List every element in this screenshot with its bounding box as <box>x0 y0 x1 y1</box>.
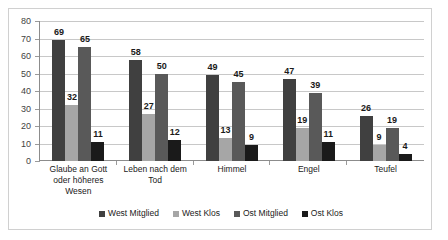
y-axis-tick-label: 10 <box>21 139 31 148</box>
bar-slot: 39 <box>309 21 322 161</box>
bar-slot: 9 <box>373 21 386 161</box>
bar[interactable]: 58 <box>129 60 142 162</box>
bar-group-bars: 4913459 <box>194 21 271 161</box>
bar-group-bars: 269194 <box>347 21 424 161</box>
chart-legend: West MitgliedWest KlosOst MitgliedOst Kl… <box>9 209 433 218</box>
bar-value-label: 65 <box>80 35 90 44</box>
legend-item[interactable]: Ost Mitglied <box>234 209 288 218</box>
bar-groups: 6932651158275012491345947193911269194 <box>40 21 424 161</box>
bar[interactable]: 12 <box>168 140 181 161</box>
legend-swatch-icon <box>234 211 240 217</box>
bar[interactable]: 27 <box>142 114 155 161</box>
bar-value-label: 39 <box>310 81 320 90</box>
bar-slot: 27 <box>142 21 155 161</box>
bar[interactable]: 11 <box>91 142 104 161</box>
bar[interactable]: 26 <box>360 116 373 162</box>
bar[interactable]: 50 <box>155 74 168 162</box>
bar-slot: 4 <box>399 21 412 161</box>
bar-slot: 11 <box>91 21 104 161</box>
bar-value-label: 45 <box>233 70 243 79</box>
bar-group: 269194 <box>347 21 424 161</box>
bar-group-bars: 47193911 <box>270 21 347 161</box>
legend-item[interactable]: West Mitglied <box>99 209 159 218</box>
bar-slot: 19 <box>296 21 309 161</box>
bar-group: 47193911 <box>270 21 347 161</box>
bar-group: 69326511 <box>40 21 117 161</box>
bar-value-label: 27 <box>144 102 154 111</box>
bar-slot: 47 <box>283 21 296 161</box>
bar-value-label: 69 <box>54 28 64 37</box>
x-axis-category-label-line: Teufel <box>349 164 422 175</box>
bar[interactable]: 11 <box>322 142 335 161</box>
bar-slot: 65 <box>78 21 91 161</box>
bar[interactable]: 19 <box>386 128 399 161</box>
bar-value-label: 11 <box>324 130 334 139</box>
bar[interactable]: 45 <box>232 82 245 161</box>
plot-region: 01020304050607080 6932651158275012491345… <box>9 9 433 169</box>
plot-area: 6932651158275012491345947193911269194 <box>40 21 424 161</box>
x-axis-category-label: Himmel <box>194 164 271 206</box>
bar[interactable]: 69 <box>52 40 65 161</box>
y-axis-tick-label: 80 <box>21 17 31 26</box>
bar[interactable]: 9 <box>373 145 386 161</box>
bar-slot: 45 <box>232 21 245 161</box>
bar-slot: 49 <box>206 21 219 161</box>
x-axis-category-label-line: Glaube an Gott <box>42 164 115 175</box>
bar-group-bars: 58275012 <box>117 21 194 161</box>
bar-slot: 9 <box>245 21 258 161</box>
y-axis-tick-mark <box>35 161 40 162</box>
bar[interactable]: 4 <box>399 154 412 161</box>
bar[interactable]: 19 <box>296 128 309 161</box>
y-axis-tick-label: 40 <box>21 87 31 96</box>
bar[interactable]: 39 <box>309 93 322 161</box>
bar-slot: 58 <box>129 21 142 161</box>
x-axis-category-label-line: Himmel <box>196 164 269 175</box>
legend-label: West Klos <box>182 209 220 218</box>
bar-value-label: 11 <box>93 130 103 139</box>
bar-value-label: 50 <box>157 62 167 71</box>
y-axis-tick-label: 30 <box>21 104 31 113</box>
bar-value-label: 13 <box>220 126 230 135</box>
bar-slot: 12 <box>168 21 181 161</box>
bar-slot: 13 <box>219 21 232 161</box>
bar[interactable]: 65 <box>78 47 91 161</box>
bar-slot: 19 <box>386 21 399 161</box>
bar-value-label: 58 <box>131 48 141 57</box>
legend-swatch-icon <box>173 211 179 217</box>
bar-value-label: 32 <box>67 93 77 102</box>
bar[interactable]: 13 <box>219 138 232 161</box>
bar-slot: 50 <box>155 21 168 161</box>
bar-value-label: 12 <box>170 128 180 137</box>
x-axis-category-label-line: Tod <box>119 175 192 186</box>
x-axis-category-label-line: Wesen <box>42 186 115 197</box>
bar-value-label: 19 <box>297 116 307 125</box>
x-axis-category-label: Glaube an Gottoder höheresWesen <box>40 164 117 206</box>
bar-value-label: 47 <box>284 67 294 76</box>
bar[interactable]: 49 <box>206 75 219 161</box>
bar-value-label: 26 <box>361 104 371 113</box>
bar-slot: 26 <box>360 21 373 161</box>
x-axis-category-label: Engel <box>270 164 347 206</box>
x-axis-category-label: Teufel <box>347 164 424 206</box>
x-axis-category-label-line: Engel <box>272 164 345 175</box>
legend-item[interactable]: West Klos <box>173 209 220 218</box>
bar[interactable]: 9 <box>245 145 258 161</box>
y-axis-tick-label: 70 <box>21 34 31 43</box>
y-axis-tick-label: 60 <box>21 52 31 61</box>
bar-slot: 69 <box>52 21 65 161</box>
bar[interactable]: 47 <box>283 79 296 161</box>
legend-swatch-icon <box>302 211 308 217</box>
x-axis-category-labels: Glaube an Gottoder höheresWesenLeben nac… <box>40 164 424 206</box>
bar-value-label: 49 <box>207 63 217 72</box>
y-axis-tick-labels: 01020304050607080 <box>9 21 35 161</box>
legend-label: West Mitglied <box>108 209 159 218</box>
bar-group: 58275012 <box>117 21 194 161</box>
bar-value-label: 19 <box>387 116 397 125</box>
bar-slot: 32 <box>65 21 78 161</box>
y-axis-tick-label: 0 <box>26 157 31 166</box>
bar-group-bars: 69326511 <box>40 21 117 161</box>
legend-item[interactable]: Ost Klos <box>302 209 343 218</box>
bar[interactable]: 32 <box>65 105 78 161</box>
bar-value-label: 4 <box>403 142 408 151</box>
bar-value-label: 9 <box>249 133 254 142</box>
